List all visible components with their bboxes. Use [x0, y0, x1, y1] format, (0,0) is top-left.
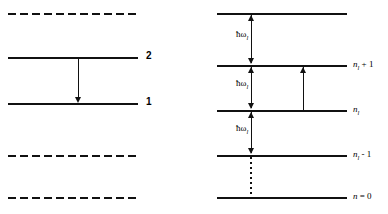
- level-1-label: 1: [146, 97, 152, 107]
- level-n-l-line: [217, 110, 347, 112]
- level-n-l-minus-1-label: nl - 1: [353, 149, 371, 163]
- subscript-l: l: [358, 154, 360, 161]
- level-1-line: [8, 103, 138, 105]
- level-2-line: [8, 57, 138, 59]
- subscript-l: l: [358, 64, 360, 71]
- absorption-arrow-head-up-icon: [300, 67, 306, 73]
- dotted-connector: [250, 157, 252, 197]
- emission-arrow-head-down-icon: [75, 97, 81, 103]
- quantum-arrow-top-head-down-icon: [248, 58, 254, 64]
- level-dashed-bottom: [8, 197, 138, 199]
- absorption-arrow-shaft: [303, 67, 304, 111]
- level-n-l-plus-1-label: nl + 1: [353, 59, 373, 73]
- plus-one-text: + 1: [362, 59, 374, 69]
- level-dashed-top: [8, 13, 138, 15]
- level-n-l-minus-1-line: [217, 155, 347, 157]
- right-panel-photon-ladder: nl + 1 nl nl - 1 n = 0 ħωl ħωl ħωl: [194, 0, 388, 214]
- level-n-zero-label: n = 0: [353, 191, 372, 201]
- level-n-l-plus-2-line: [217, 13, 347, 15]
- subscript-l: l: [246, 83, 248, 90]
- quantum-arrow-middle-head-up-icon: [248, 67, 254, 73]
- level-n-l-label: nl: [353, 104, 359, 118]
- level-2-label: 2: [146, 51, 152, 61]
- level-n-zero-line: [217, 197, 347, 199]
- quantum-arrow-middle-shaft: [251, 67, 252, 108]
- emission-arrow-shaft: [78, 58, 79, 99]
- energy-quantum-label-middle: ħωl: [234, 78, 250, 92]
- quantum-arrow-lower-shaft: [251, 112, 252, 153]
- level-dashed-lower: [8, 155, 138, 157]
- equals-zero-text: = 0: [360, 191, 372, 201]
- energy-quantum-label-top: ħωl: [234, 29, 250, 43]
- n-symbol: n: [353, 191, 358, 201]
- hbar-omega-middle: ħω: [236, 78, 246, 88]
- quantum-arrow-lower-head-down-icon: [248, 148, 254, 154]
- quantum-arrow-top-shaft: [251, 15, 252, 63]
- energy-quantum-label-lower: ħωl: [234, 123, 250, 137]
- quantum-arrow-top-head-up-icon: [248, 15, 254, 21]
- subscript-l: l: [246, 128, 248, 135]
- hbar-omega-top: ħω: [236, 29, 246, 39]
- quantum-arrow-lower-head-up-icon: [248, 112, 254, 118]
- subscript-l: l: [358, 109, 360, 116]
- subscript-l: l: [246, 34, 248, 41]
- level-n-l-plus-1-line: [217, 65, 347, 67]
- left-panel-two-level-system: 2 1: [0, 0, 194, 214]
- energy-level-diagram: 2 1 nl + 1 nl nl - 1 n = 0 ħωl: [0, 0, 388, 214]
- minus-one-text: - 1: [362, 149, 372, 159]
- quantum-arrow-middle-head-down-icon: [248, 103, 254, 109]
- hbar-omega-lower: ħω: [236, 123, 246, 133]
